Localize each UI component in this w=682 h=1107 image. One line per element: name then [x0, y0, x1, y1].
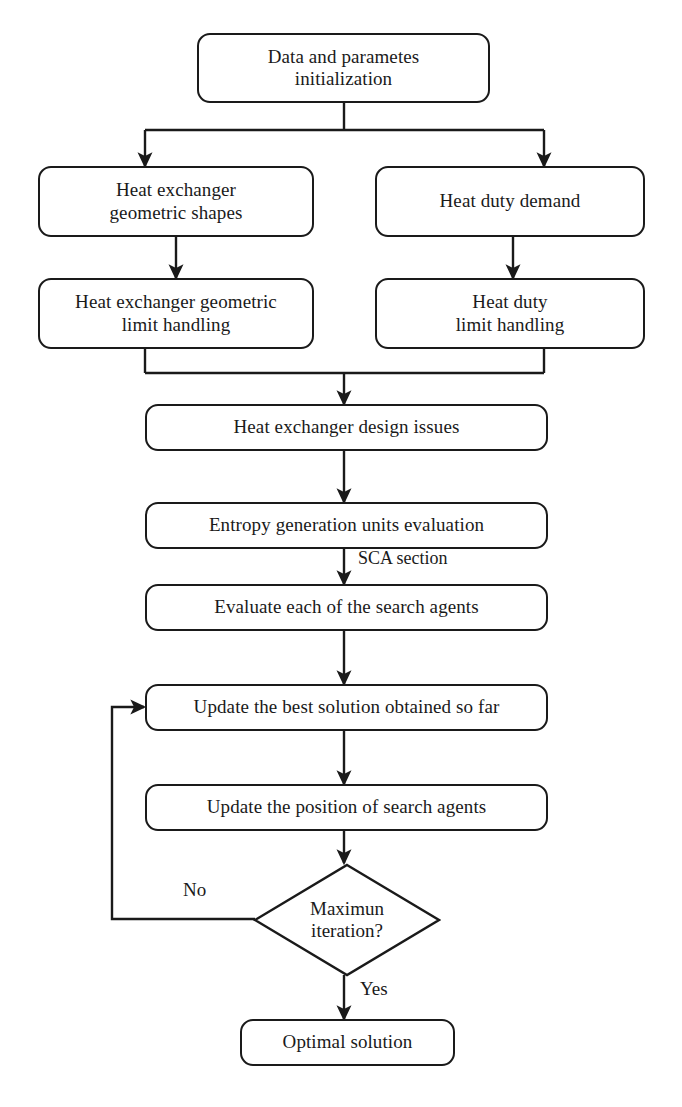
node-decision-maximum-iteration[interactable]: Maximun iteration?: [253, 863, 441, 977]
node-heat-exchanger-geometric-shapes[interactable]: Heat exchanger geometric shapes: [38, 166, 314, 237]
edge-label-sca-section: SCA section: [358, 548, 448, 569]
node-entropy-generation-units-evaluation[interactable]: Entropy generation units evaluation: [145, 502, 548, 549]
node-heat-duty-limit-handling[interactable]: Heat duty limit handling: [375, 278, 645, 349]
node-label-entropy-generation-units-evaluation: Entropy generation units evaluation: [209, 514, 484, 536]
node-label-update-position-search-agents: Update the position of search agents: [207, 796, 487, 818]
node-label-decision-maximum-iteration: Maximun iteration?: [310, 898, 384, 942]
node-heat-exchanger-design-issues[interactable]: Heat exchanger design issues: [145, 404, 548, 451]
flowchart-canvas: Data and parametes initialization Heat e…: [0, 0, 682, 1107]
node-heat-exchanger-geometric-limit-handling[interactable]: Heat exchanger geometric limit handling: [38, 278, 314, 349]
edge-label-yes: Yes: [360, 978, 388, 1000]
node-optimal-solution[interactable]: Optimal solution: [240, 1019, 455, 1066]
node-evaluate-search-agents[interactable]: Evaluate each of the search agents: [145, 584, 548, 631]
node-data-initialization[interactable]: Data and parametes initialization: [197, 33, 490, 103]
edge-label-no: No: [183, 879, 206, 901]
node-label-heat-exchanger-geometric-shapes: Heat exchanger geometric shapes: [110, 179, 243, 224]
node-label-data-initialization: Data and parametes initialization: [268, 46, 420, 91]
node-heat-duty-demand[interactable]: Heat duty demand: [375, 166, 645, 237]
node-label-update-best-solution: Update the best solution obtained so far: [194, 696, 500, 718]
node-label-heat-duty-demand: Heat duty demand: [440, 190, 581, 212]
node-update-position-search-agents[interactable]: Update the position of search agents: [145, 784, 548, 831]
node-update-best-solution[interactable]: Update the best solution obtained so far: [145, 684, 548, 731]
node-label-heat-exchanger-design-issues: Heat exchanger design issues: [234, 416, 460, 438]
node-label-evaluate-search-agents: Evaluate each of the search agents: [214, 596, 479, 618]
node-label-heat-duty-limit-handling: Heat duty limit handling: [456, 291, 565, 336]
node-label-optimal-solution: Optimal solution: [283, 1031, 413, 1053]
node-label-heat-exchanger-geometric-limit-handling: Heat exchanger geometric limit handling: [75, 291, 277, 336]
